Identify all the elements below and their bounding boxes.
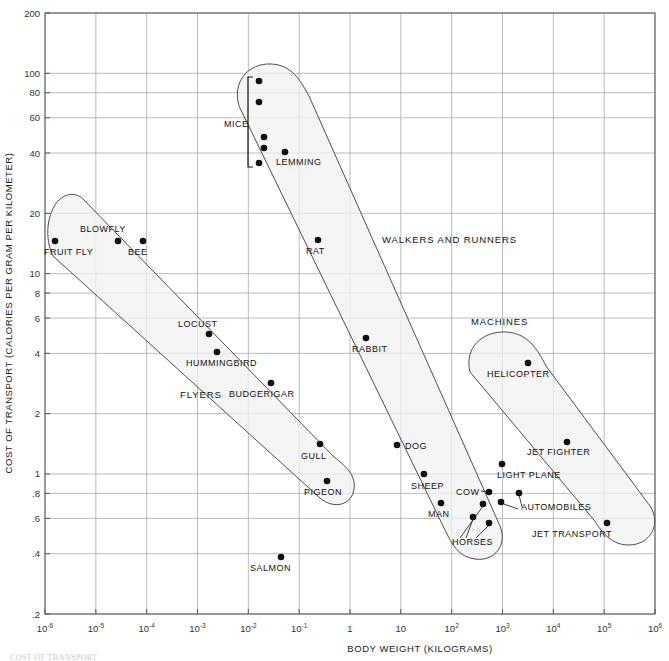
data-point-automobile-2[interactable] [516, 490, 523, 497]
y-tick-label-1: 100 [24, 68, 40, 79]
data-point-automobile-1[interactable] [498, 499, 505, 506]
data-point-man[interactable] [438, 500, 445, 507]
data-point-dog[interactable] [394, 442, 401, 449]
x-tick-label-6: 1 [347, 623, 352, 634]
chart-background [0, 0, 669, 661]
y-tick-label-11: 1 [35, 468, 40, 479]
data-point-rat[interactable] [315, 237, 322, 244]
y-tick-label-15: .2 [32, 609, 40, 620]
data-point-mice-5[interactable] [256, 160, 263, 167]
data-point-mice-3[interactable] [261, 134, 268, 141]
data-point-blowfly[interactable] [115, 238, 122, 245]
y-tick-label-4: 40 [29, 148, 40, 159]
y-tick-label-0: 200 [24, 8, 40, 19]
point-label-fruit-fly: FRUIT FLY [44, 247, 93, 257]
data-point-mice-1[interactable] [256, 78, 263, 85]
y-tick-label-2: 80 [29, 87, 40, 98]
x-tick-exponent-2: -4 [149, 622, 155, 629]
y-axis-title: COST OF TRANSPORT (CALORIES PER GRAM PER… [3, 153, 14, 474]
x-tick-exponent-0: -6 [47, 622, 53, 629]
x-tick-exponent-5: -1 [302, 622, 308, 629]
data-point-jet-transport[interactable] [604, 520, 611, 527]
y-tick-label-14: .4 [32, 548, 40, 559]
x-tick-exponent-4: -2 [251, 622, 257, 629]
y-tick-label-3: 60 [29, 112, 40, 123]
point-label-blowfly: BLOWFLY [80, 224, 126, 234]
point-label-hummingbird: HUMMINGBIRD [186, 358, 257, 368]
point-label-pigeon: PIGEON [304, 487, 342, 497]
point-label-gull: GULL [301, 451, 327, 461]
y-tick-label-5: 20 [29, 208, 40, 219]
x-tick-exponent-11: 5 [608, 622, 612, 629]
group-label-flyers: FLYERS [180, 389, 222, 400]
x-tick-exponent-12: 6 [658, 622, 662, 629]
point-label-budgerigar: BUDGERIGAR [229, 389, 295, 399]
point-label-man: MAN [428, 509, 450, 519]
y-tick-label-13: .6 [32, 513, 40, 524]
x-tick-exponent-8: 2 [455, 622, 459, 629]
point-label-bee: BEE [128, 247, 148, 257]
data-point-light-plane[interactable] [499, 461, 506, 468]
x-tick-label-7: 10 [396, 623, 407, 634]
cost-of-transport-chart: FRUIT FLYBLOWFLYBEELOCUSTHUMMINGBIRDBUDG… [0, 0, 669, 661]
data-point-gull[interactable] [317, 441, 324, 448]
y-tick-label-10: 2 [35, 408, 40, 419]
group-label-machines: MACHINES [471, 316, 528, 327]
data-point-sheep[interactable] [421, 471, 428, 478]
point-label-rat: RAT [306, 246, 325, 256]
point-label-light-plane: LIGHT PLANE [497, 470, 561, 480]
data-point-helicopter[interactable] [525, 360, 532, 367]
x-tick-exponent-10: 4 [557, 622, 561, 629]
x-tick-exponent-3: -3 [200, 622, 206, 629]
data-point-mice-4[interactable] [261, 145, 268, 152]
y-tick-label-7: 8 [35, 288, 40, 299]
data-point-lemming[interactable] [282, 149, 289, 156]
group-label-walkers-and-runners: WALKERS AND RUNNERS [382, 234, 517, 245]
data-point-mice-2[interactable] [256, 99, 263, 106]
point-label-jet-transport: JET TRANSPORT [532, 529, 612, 539]
data-point-rabbit[interactable] [363, 335, 370, 342]
point-label-jet-fighter: JET FIGHTER [527, 447, 590, 457]
data-point-fruit-fly[interactable] [52, 238, 59, 245]
point-label-mice: MICE [224, 119, 249, 129]
data-point-horse-2[interactable] [470, 514, 477, 521]
data-point-locust[interactable] [206, 331, 213, 338]
y-tick-label-12: .8 [32, 488, 40, 499]
data-point-pigeon[interactable] [324, 478, 331, 485]
data-point-cow[interactable] [486, 489, 493, 496]
x-tick-exponent-9: 3 [506, 622, 510, 629]
chart-canvas: FRUIT FLYBLOWFLYBEELOCUSTHUMMINGBIRDBUDG… [0, 0, 669, 661]
x-axis-title: BODY WEIGHT (KILOGRAMS) [347, 643, 492, 654]
point-label-horses: HORSES [452, 537, 493, 547]
point-label-cow: COW [456, 487, 480, 497]
point-label-lemming: LEMMING [276, 157, 322, 167]
figure-caption: COST OF TRANSPORT [10, 653, 97, 661]
y-tick-label-9: 4 [35, 348, 40, 359]
data-point-jet-fighter[interactable] [564, 439, 571, 446]
point-label-automobiles: AUTOMOBILES [521, 502, 591, 512]
point-label-salmon: SALMON [250, 563, 291, 573]
data-point-horse-1[interactable] [480, 501, 487, 508]
y-tick-label-6: 10 [29, 268, 40, 279]
data-point-bee[interactable] [140, 238, 147, 245]
point-label-rabbit: RABBIT [352, 344, 388, 354]
data-point-salmon[interactable] [278, 554, 285, 561]
data-point-horse-3[interactable] [486, 520, 493, 527]
data-point-budgerigar[interactable] [268, 380, 275, 387]
point-label-locust: LOCUST [178, 319, 218, 329]
point-label-sheep: SHEEP [411, 481, 444, 491]
point-label-dog: DOG [405, 441, 427, 451]
y-tick-label-8: 6 [35, 313, 40, 324]
x-tick-exponent-1: -5 [98, 622, 104, 629]
point-label-helicopter: HELICOPTER [487, 369, 550, 379]
data-point-hummingbird[interactable] [214, 349, 221, 356]
